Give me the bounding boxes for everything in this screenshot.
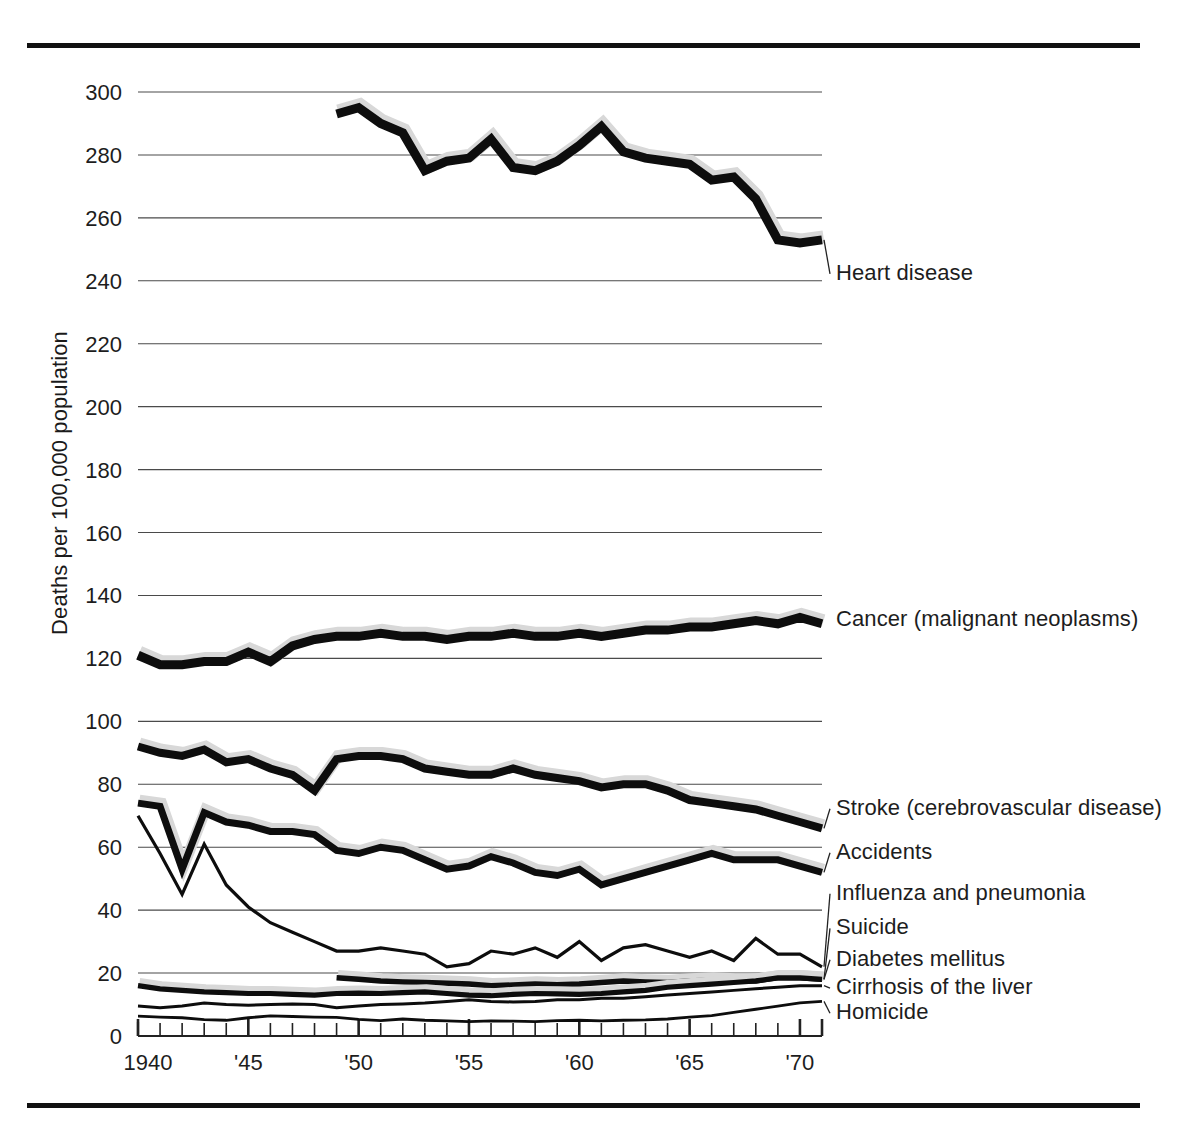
gridlines-group — [138, 92, 822, 973]
y-tick-label: 300 — [85, 80, 122, 105]
x-tick-label: '65 — [675, 1050, 704, 1075]
series-label-4: Influenza and pneumonia — [836, 880, 1085, 906]
series-label-6: Diabetes mellitus — [836, 946, 1005, 972]
series-label-8: Homicide — [836, 999, 929, 1025]
series-group — [138, 105, 824, 1022]
y-tick-label: 240 — [85, 269, 122, 294]
series-halo-0 — [338, 105, 823, 240]
y-tick-label: 280 — [85, 143, 122, 168]
y-tick-label: 60 — [98, 835, 122, 860]
leader-line-8 — [824, 1001, 830, 1013]
series-line-1[interactable] — [138, 617, 822, 664]
leader-lines-group — [824, 240, 830, 1013]
y-tick-label: 40 — [98, 898, 122, 923]
leader-line-2 — [824, 809, 830, 829]
series-halo-3 — [140, 800, 824, 882]
x-tick-label: 1940 — [124, 1050, 173, 1075]
series-label-7: Cirrhosis of the liver — [836, 974, 1033, 1000]
y-tick-label: 100 — [85, 709, 122, 734]
x-tick-label: '50 — [344, 1050, 373, 1075]
y-tick-label: 0 — [110, 1024, 122, 1049]
x-tick-label: '45 — [234, 1050, 263, 1075]
y-tick-label: 220 — [85, 332, 122, 357]
y-tick-label: 20 — [98, 961, 122, 986]
figure-root: Deaths per 100,000 population 0204060801… — [0, 0, 1192, 1146]
leader-line-7 — [824, 986, 830, 988]
series-label-1: Cancer (malignant neoplasms) — [836, 606, 1138, 632]
y-tick-label: 80 — [98, 772, 122, 797]
y-tick-label: 260 — [85, 206, 122, 231]
y-tick-labels-group: 0204060801001201401601802002202402602803… — [85, 80, 122, 1049]
y-tick-label: 160 — [85, 521, 122, 546]
x-tick-label: '70 — [786, 1050, 815, 1075]
x-tick-labels-group: 1940'45'50'55'60'65'70 — [124, 1050, 815, 1075]
x-tick-label: '60 — [565, 1050, 594, 1075]
leader-line-0 — [824, 240, 830, 274]
y-tick-label: 200 — [85, 395, 122, 420]
y-tick-label: 180 — [85, 458, 122, 483]
x-tick-label: '55 — [455, 1050, 484, 1075]
leader-line-3 — [824, 853, 830, 873]
series-label-0: Heart disease — [836, 260, 973, 286]
y-tick-label: 140 — [85, 583, 122, 608]
series-label-5: Suicide — [836, 914, 909, 940]
series-label-3: Accidents — [836, 839, 932, 865]
series-label-2: Stroke (cerebrovascular disease) — [836, 795, 1162, 821]
y-tick-label: 120 — [85, 646, 122, 671]
series-line-4[interactable] — [138, 816, 822, 967]
